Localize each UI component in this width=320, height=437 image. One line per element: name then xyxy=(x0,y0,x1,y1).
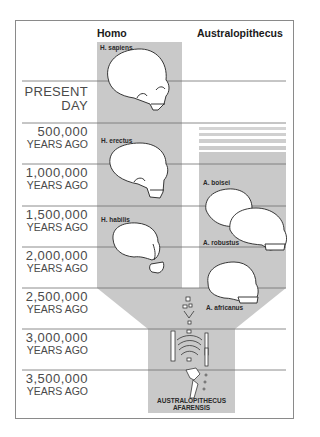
label-a-afarensis: AUSTRALOPITHECUS AFARENSIS xyxy=(148,397,235,412)
time-value: 500,000 xyxy=(27,125,88,138)
afarensis-line-1: AUSTRALOPITHECUS xyxy=(148,397,235,404)
time-label-1m: 1,000,000 YEARS AGO xyxy=(26,166,88,191)
time-value: 3,000,000 xyxy=(26,331,88,344)
time-value: PRESENT xyxy=(24,85,88,98)
time-label-3-5m: 3,500,000 YEARS AGO xyxy=(26,372,88,397)
time-value: 1,500,000 xyxy=(26,208,88,221)
time-value: 2,000,000 xyxy=(26,249,88,262)
time-value: 1,000,000 xyxy=(26,166,88,179)
time-unit: YEARS AGO xyxy=(26,304,88,315)
striped-uncertain-region xyxy=(199,127,286,164)
label-h-sapiens: H. sapiens xyxy=(100,44,133,51)
column-header-homo: Homo xyxy=(97,27,127,39)
time-value: 3,500,000 xyxy=(26,372,88,385)
afarensis-line-2: AFARENSIS xyxy=(148,404,235,411)
time-label-500k: 500,000 YEARS AGO xyxy=(27,125,88,150)
column-header-australopithecus: Australopithecus xyxy=(197,27,283,39)
time-unit: YEARS AGO xyxy=(26,180,88,191)
time-label-present: PRESENT DAY xyxy=(24,85,88,112)
time-value: 2,500,000 xyxy=(26,290,88,303)
label-a-africanus: A. africanus xyxy=(206,304,243,311)
time-unit: YEARS AGO xyxy=(27,139,88,150)
time-label-1-5m: 1,500,000 YEARS AGO xyxy=(26,208,88,233)
time-unit: YEARS AGO xyxy=(26,386,88,397)
time-label-2-5m: 2,500,000 YEARS AGO xyxy=(26,290,88,315)
time-unit: YEARS AGO xyxy=(26,345,88,356)
label-h-habilis: H. habilis xyxy=(101,216,130,223)
time-label-3m: 3,000,000 YEARS AGO xyxy=(26,331,88,356)
label-a-robustus: A. robustus xyxy=(203,239,239,246)
label-a-boisei: A. boisei xyxy=(203,179,230,186)
time-unit: YEARS AGO xyxy=(26,263,88,274)
time-label-2m: 2,000,000 YEARS AGO xyxy=(26,249,88,274)
time-unit: YEARS AGO xyxy=(26,222,88,233)
time-unit: DAY xyxy=(24,99,88,112)
label-h-erectus: H. erectus xyxy=(101,137,132,144)
